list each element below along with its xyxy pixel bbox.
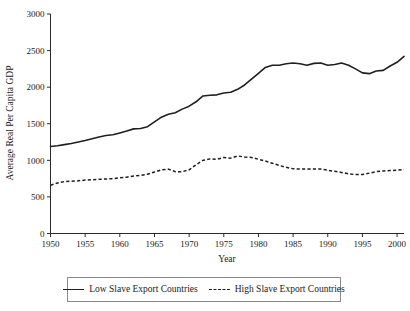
y-tick-group: 050010001500200025003000 — [27, 9, 51, 239]
chart-legend: Low Slave Export Countries High Slave Ex… — [67, 277, 341, 302]
y-tick-label: 1500 — [27, 119, 46, 129]
legend-item-low-slave-export-countries: Low Slave Export Countries — [63, 285, 197, 295]
x-axis: 1950195519601965197019751980198519901995… — [42, 234, 407, 249]
x-axis-title: Year — [218, 254, 236, 264]
y-tick-label: 500 — [31, 192, 45, 202]
x-tick-label: 1975 — [215, 239, 234, 249]
legend-label-low: Low Slave Export Countries — [89, 285, 197, 295]
x-tick-label: 1985 — [284, 239, 303, 249]
series-line-low-slave-export-countries — [51, 56, 405, 146]
x-tick-label: 1965 — [145, 239, 164, 249]
legend-swatch-dashed-icon — [209, 289, 230, 290]
y-axis: 050010001500200025003000 — [27, 9, 51, 239]
x-tick-label: 2000 — [388, 239, 407, 249]
x-tick-label: 1970 — [180, 239, 199, 249]
legend-item-high-slave-export-countries: High Slave Export Countries — [209, 285, 345, 295]
legend-swatch-solid-icon — [63, 289, 84, 290]
x-tick-label: 1960 — [111, 239, 130, 249]
legend-label-high: High Slave Export Countries — [235, 285, 345, 295]
y-tick-label: 3000 — [27, 9, 46, 19]
x-tick-group: 1950195519601965197019751980198519901995… — [42, 234, 407, 249]
y-tick-label: 1000 — [27, 156, 46, 166]
x-tick-label: 1990 — [319, 239, 338, 249]
y-tick-label: 0 — [40, 229, 45, 239]
y-axis-title: Average Real Per Capita GDP — [5, 66, 15, 181]
y-tick-label: 2500 — [27, 46, 46, 56]
x-tick-label: 1950 — [42, 239, 61, 249]
line-chart: 050010001500200025003000 195019551960196… — [0, 0, 410, 311]
chart-figure: 050010001500200025003000 195019551960196… — [0, 0, 410, 311]
x-tick-label: 1980 — [249, 239, 268, 249]
y-tick-label: 2000 — [27, 82, 46, 92]
series-line-high-slave-export-countries — [51, 156, 405, 185]
x-tick-label: 1955 — [76, 239, 95, 249]
x-tick-label: 1995 — [353, 239, 372, 249]
